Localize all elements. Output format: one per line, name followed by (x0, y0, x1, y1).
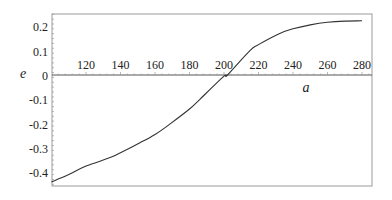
y-tick-label: -0.4 (29, 166, 48, 180)
x-tick-label: 160 (146, 58, 164, 72)
y-tick-label: -0.2 (29, 118, 48, 132)
data-curve (52, 21, 363, 182)
x-axis-label: a (303, 80, 310, 95)
y-tick-label: -0.1 (29, 93, 48, 107)
y-tick-label: 0.1 (33, 45, 48, 59)
x-tick-label: 120 (77, 58, 95, 72)
x-tick-label: 200 (215, 58, 233, 72)
x-tick-label: 280 (353, 58, 371, 72)
y-axis-tick-labels: 0.20.10-0.1-0.2-0.3-0.4 (29, 20, 48, 180)
x-tick-label: 240 (284, 58, 302, 72)
x-tick-label: 220 (250, 58, 268, 72)
x-axis-tick-labels: 120140160180200220240260280 (77, 58, 371, 72)
y-tick-label: 0.2 (33, 20, 48, 34)
x-tick-label: 140 (112, 58, 130, 72)
y-axis-label: e (20, 66, 26, 81)
x-tick-label: 260 (319, 58, 337, 72)
y-tick-label: 0 (42, 69, 48, 83)
y-tick-label: -0.3 (29, 142, 48, 156)
line-chart: 0.20.10-0.1-0.2-0.3-0.4 1201401601802002… (0, 0, 392, 200)
plot-frame (52, 14, 372, 186)
x-tick-label: 180 (181, 58, 199, 72)
